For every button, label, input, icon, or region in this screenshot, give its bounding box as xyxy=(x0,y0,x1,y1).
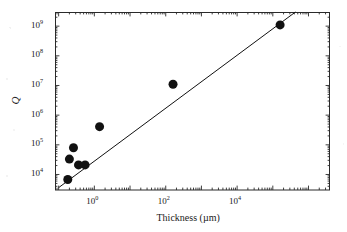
data-point xyxy=(81,160,90,169)
data-point xyxy=(63,175,72,184)
data-point xyxy=(95,122,104,131)
x-tick-label-1e0: 100 xyxy=(86,197,98,206)
data-point xyxy=(69,143,78,152)
y-tick-label-1e4: 104 xyxy=(31,169,43,178)
scatter-plot xyxy=(0,0,347,232)
data-point xyxy=(169,80,178,89)
plot-frame xyxy=(56,13,330,191)
y-axis-title: Q xyxy=(10,97,21,105)
data-point xyxy=(65,155,74,164)
y-tick-label-1e7: 107 xyxy=(31,80,43,89)
x-tick-label-1e4: 104 xyxy=(229,197,241,206)
axis-ticks xyxy=(55,12,330,190)
y-tick-label-1e5: 105 xyxy=(31,139,43,148)
x-tick-label-1e2: 102 xyxy=(158,197,170,206)
y-tick-label-1e8: 108 xyxy=(31,50,43,59)
fit-line xyxy=(59,12,296,188)
data-point xyxy=(276,20,285,29)
y-tick-label-1e9: 109 xyxy=(31,21,43,30)
figure-container: 109 108 107 106 105 104 100 102 104 Thic… xyxy=(0,0,347,232)
x-axis-title: Thickness (µm) xyxy=(157,213,220,223)
y-tick-label-1e6: 106 xyxy=(31,110,43,119)
